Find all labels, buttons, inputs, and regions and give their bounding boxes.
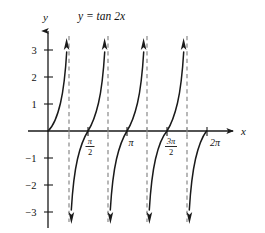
y-tick-label-neg1: −1 [25, 153, 36, 164]
y-tick-label-neg3: −3 [25, 207, 36, 218]
branch-arrow-up-icon [102, 38, 108, 50]
graph-title: y = tan 2x [77, 10, 126, 23]
y-axis-label: y [42, 11, 48, 23]
x-axis-label: x [240, 125, 246, 137]
x-tick-label-pi: π [128, 137, 134, 148]
branch-arrow-down-icon [69, 212, 75, 224]
fraction-denominator: 2 [169, 147, 173, 157]
tangent-branch [48, 52, 67, 131]
fraction-numerator: π [88, 136, 93, 146]
graph-canvas: y = tan 2x y x 3 2 1 −1 −2 −3 π 2 π 3π 2… [0, 0, 265, 233]
branch-arrow-down-icon [108, 212, 114, 224]
tangent-branch [189, 131, 206, 210]
tangent-graph-figure: y = tan 2x y x 3 2 1 −1 −2 −3 π 2 π 3π 2… [0, 0, 265, 233]
x-tick-label-pi-over-2: π 2 [86, 136, 95, 157]
branch-arrow-up-icon [181, 38, 187, 50]
branch-arrow-down-icon [187, 212, 193, 224]
branch-arrow-down-icon [147, 212, 153, 224]
fraction-denominator: 2 [88, 147, 92, 157]
y-tick-label-neg2: −2 [25, 180, 36, 191]
x-tick-label-3pi-over-2: 3π 2 [165, 136, 177, 157]
label-group: y = tan 2x y x 3 2 1 −1 −2 −3 π 2 π 3π 2… [25, 10, 246, 218]
fraction-numerator: 3π [166, 136, 176, 146]
axes-group [28, 31, 233, 228]
y-tick-label-2: 2 [31, 72, 36, 83]
y-tick-label-1: 1 [31, 99, 36, 110]
x-tick-label-2pi: 2π [210, 137, 221, 148]
branch-arrow-up-icon [141, 38, 147, 50]
y-tick-label-3: 3 [31, 45, 36, 56]
